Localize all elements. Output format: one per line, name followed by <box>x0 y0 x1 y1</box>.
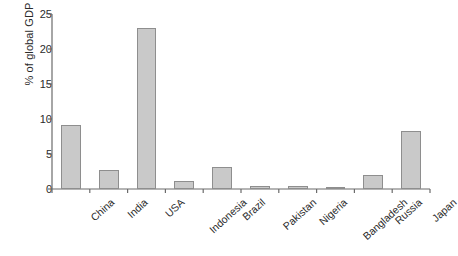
bar-china <box>61 125 81 189</box>
bar-india <box>99 170 119 189</box>
bar-japan <box>401 131 421 189</box>
bar-nigeria <box>288 186 308 189</box>
bar-brazil <box>212 167 232 189</box>
bar-russia <box>363 175 383 189</box>
bar-pakistan <box>250 186 270 189</box>
bar-indonesia <box>174 181 194 189</box>
bar-usa <box>137 28 157 189</box>
bar-bangladesh <box>326 187 346 189</box>
